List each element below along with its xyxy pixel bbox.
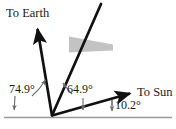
label-to-earth: To Earth xyxy=(6,7,49,20)
figure-canvas: To Earth To Sun 74.9° 64.9° 10.2° xyxy=(0,0,176,129)
label-angle-to-earth: 74.9° xyxy=(9,83,35,95)
comet-tail-wedge xyxy=(69,37,113,53)
label-angle-to-sun: 10.2° xyxy=(115,99,141,111)
ray-comet-axis xyxy=(52,4,101,116)
label-to-sun: To Sun xyxy=(137,86,173,99)
label-angle-comet-axis: 64.9° xyxy=(67,83,93,95)
ray-to-earth xyxy=(38,29,53,116)
